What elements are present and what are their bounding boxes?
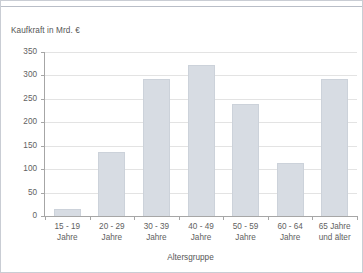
x-tick-mark xyxy=(357,216,358,220)
y-tick-label: 350 xyxy=(0,48,37,56)
y-tick-label: 250 xyxy=(0,95,37,103)
y-tick-label: 50 xyxy=(0,189,37,197)
x-tick-mark xyxy=(179,216,180,220)
y-tick-label: 100 xyxy=(0,165,37,173)
bar[interactable] xyxy=(98,152,125,216)
bar[interactable] xyxy=(54,209,81,216)
bar[interactable] xyxy=(188,65,215,216)
x-category-label-line: und älter xyxy=(307,233,363,244)
y-tick-label: 150 xyxy=(0,142,37,150)
y-axis-title: Kaufkraft in Mrd. € xyxy=(11,26,80,35)
x-tick-mark xyxy=(223,216,224,220)
bar[interactable] xyxy=(232,104,259,216)
bar[interactable] xyxy=(277,163,304,216)
bar[interactable] xyxy=(143,79,170,216)
x-tick-mark xyxy=(134,216,135,220)
y-tick-label: 0 xyxy=(0,212,37,220)
chart-figure: Kaufkraft in Mrd. € 05010015020025030035… xyxy=(0,0,363,273)
plot-area xyxy=(45,52,357,216)
x-tick-mark xyxy=(268,216,269,220)
bar[interactable] xyxy=(321,79,348,216)
x-axis-title-text: Altersgruppe xyxy=(149,253,213,262)
y-tick-label: 300 xyxy=(0,71,37,79)
x-tick-mark xyxy=(45,216,46,220)
x-tick-mark xyxy=(312,216,313,220)
gridline xyxy=(45,216,357,217)
x-category-label: 65 Jahreund älter xyxy=(307,222,363,243)
y-tick-label: 200 xyxy=(0,118,37,126)
figure-top-rule xyxy=(1,6,362,7)
x-category-label-line: 65 Jahre xyxy=(307,222,363,233)
x-axis-title: Altersgruppe xyxy=(1,253,362,262)
x-tick-mark xyxy=(90,216,91,220)
